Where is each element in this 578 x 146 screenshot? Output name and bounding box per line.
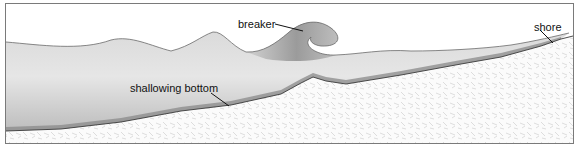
label-shore: shore (534, 21, 562, 33)
wave-diagram (6, 4, 573, 143)
label-breaker: breaker (238, 18, 275, 30)
label-shallowing-bottom: shallowing bottom (130, 82, 218, 94)
diagram-frame: breaker shore shallowing bottom (5, 3, 574, 144)
